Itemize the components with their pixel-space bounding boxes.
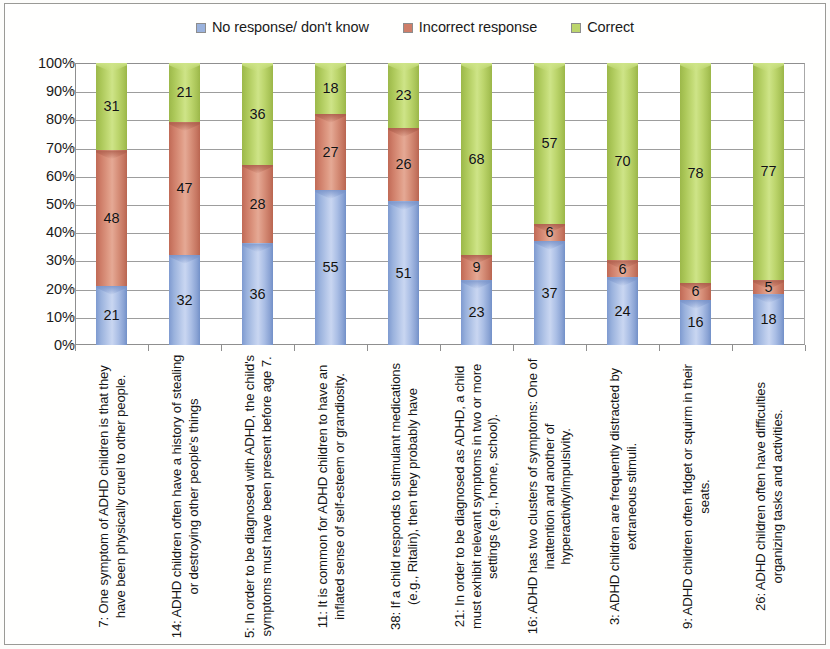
- segment-value-label: 26: [395, 157, 411, 172]
- segment-value-label: 21: [103, 308, 119, 323]
- x-axis-tick-mark: [732, 345, 733, 351]
- segment-incorrect[interactable]: 48: [96, 150, 127, 285]
- segment-correct[interactable]: 21: [169, 63, 200, 122]
- segment-incorrect[interactable]: 6: [607, 260, 638, 277]
- segment-incorrect[interactable]: 9: [461, 255, 492, 280]
- segment-no-response[interactable]: 21: [96, 286, 127, 345]
- segment-correct[interactable]: 23: [388, 63, 419, 128]
- segment-value-label: 21: [176, 85, 192, 100]
- y-axis-tick-label: 60%: [13, 168, 75, 184]
- segment-value-label: 68: [468, 152, 484, 167]
- segment-incorrect[interactable]: 5: [753, 280, 784, 294]
- segment-value-label: 28: [249, 197, 265, 212]
- category-label-slot: 38: If a child responds to stimulant med…: [367, 354, 440, 644]
- bar-slot: 214732: [148, 63, 221, 345]
- x-axis-tick-mark: [294, 345, 295, 351]
- y-axis: 100%90%80%70%60%50%40%30%20%10%0%: [0, 63, 75, 345]
- segment-correct[interactable]: 31: [96, 63, 127, 150]
- segment-no-response[interactable]: 23: [461, 280, 492, 345]
- segment-value-label: 23: [468, 305, 484, 320]
- category-label-slot: 26: ADHD children often have difficultie…: [732, 354, 805, 644]
- segment-incorrect[interactable]: 6: [680, 283, 711, 300]
- y-axis-tick-label: 40%: [13, 224, 75, 240]
- segment-value-label: 55: [322, 260, 338, 275]
- segment-value-label: 6: [691, 284, 699, 299]
- category-label: 21: In order to be diagnosed as ADHD, a …: [452, 354, 502, 639]
- segment-value-label: 27: [322, 145, 338, 160]
- segment-value-label: 6: [618, 262, 626, 277]
- stacked-bar[interactable]: 182755: [315, 63, 346, 345]
- segment-incorrect[interactable]: 28: [242, 165, 273, 244]
- segment-correct[interactable]: 57: [534, 63, 565, 224]
- segment-correct[interactable]: 36: [242, 63, 273, 165]
- x-axis-tick-mark: [513, 345, 514, 351]
- category-label-slot: 3: ADHD children are frequently distract…: [586, 354, 659, 644]
- x-axis-tick-mark: [75, 345, 76, 351]
- segment-value-label: 36: [249, 107, 265, 122]
- segment-no-response[interactable]: 24: [607, 277, 638, 345]
- stacked-bar[interactable]: 314821: [96, 63, 127, 345]
- segment-value-label: 18: [760, 312, 776, 327]
- segment-no-response[interactable]: 36: [242, 243, 273, 345]
- category-label: 16: ADHD has two clusters of symptoms: O…: [525, 354, 575, 639]
- category-label: 3: ADHD children are frequently distract…: [606, 354, 639, 639]
- segment-no-response[interactable]: 32: [169, 255, 200, 345]
- category-label: 38: If a child responds to stimulant med…: [387, 354, 420, 639]
- category-label: 7: One symptom of ADHD children is that …: [95, 354, 128, 639]
- segment-no-response[interactable]: 16: [680, 300, 711, 345]
- segment-incorrect[interactable]: 27: [315, 114, 346, 190]
- segment-value-label: 77: [760, 164, 776, 179]
- segment-value-label: 37: [541, 286, 557, 301]
- category-label-slot: 9: ADHD children often fidget or squirm …: [659, 354, 732, 644]
- x-axis-tick-mark: [148, 345, 149, 351]
- segment-no-response[interactable]: 55: [315, 190, 346, 345]
- x-axis-tick-mark: [367, 345, 368, 351]
- x-axis-ticks: [75, 345, 805, 352]
- y-axis-tick-label: 10%: [13, 309, 75, 325]
- y-axis-tick-label: 100%: [13, 55, 75, 71]
- segment-incorrect[interactable]: 47: [169, 122, 200, 255]
- bar-slot: 57637: [513, 63, 586, 345]
- segment-value-label: 31: [103, 99, 119, 114]
- stacked-bar[interactable]: 77518: [753, 63, 784, 345]
- bar-slot: 77518: [732, 63, 805, 345]
- segment-value-label: 48: [103, 211, 119, 226]
- bar-slot: 182755: [294, 63, 367, 345]
- segment-no-response[interactable]: 18: [753, 294, 784, 345]
- stacked-bar[interactable]: 70624: [607, 63, 638, 345]
- segment-value-label: 36: [249, 287, 265, 302]
- segment-value-label: 51: [395, 266, 411, 281]
- bar-slot: 314821: [75, 63, 148, 345]
- category-label-slot: 5: In order to be diagnosed with ADHD, t…: [221, 354, 294, 644]
- stacked-bar[interactable]: 214732: [169, 63, 200, 345]
- segment-incorrect[interactable]: 6: [534, 224, 565, 241]
- segment-value-label: 70: [614, 154, 630, 169]
- segment-correct[interactable]: 18: [315, 63, 346, 114]
- segment-correct[interactable]: 77: [753, 63, 784, 280]
- category-label: 9: ADHD children often fidget or squirm …: [679, 354, 712, 639]
- segment-no-response[interactable]: 51: [388, 201, 419, 345]
- stacked-bar[interactable]: 232651: [388, 63, 419, 345]
- segment-incorrect[interactable]: 26: [388, 128, 419, 201]
- x-axis-category-labels: 7: One symptom of ADHD children is that …: [75, 354, 805, 644]
- chart-screenshot: No response/ don't knowIncorrect respons…: [0, 0, 830, 649]
- category-label: 11: It is common for ADHD children to ha…: [314, 354, 347, 639]
- category-label: 5: In order to be diagnosed with ADHD, t…: [241, 354, 274, 639]
- segment-no-response[interactable]: 37: [534, 241, 565, 345]
- stacked-bar[interactable]: 57637: [534, 63, 565, 345]
- stacked-bar[interactable]: 78616: [680, 63, 711, 345]
- segment-correct[interactable]: 78: [680, 63, 711, 283]
- segment-value-label: 24: [614, 304, 630, 319]
- stacked-bar[interactable]: 362836: [242, 63, 273, 345]
- segment-value-label: 16: [687, 315, 703, 330]
- segment-value-label: 18: [322, 81, 338, 96]
- segment-correct[interactable]: 68: [461, 63, 492, 255]
- x-axis-tick-mark: [805, 345, 806, 351]
- segment-value-label: 78: [687, 166, 703, 181]
- category-label-slot: 16: ADHD has two clusters of symptoms: O…: [513, 354, 586, 644]
- segment-value-label: 5: [764, 280, 772, 295]
- stacked-bar[interactable]: 68923: [461, 63, 492, 345]
- segment-correct[interactable]: 70: [607, 63, 638, 260]
- y-axis-tick-label: 70%: [13, 140, 75, 156]
- segment-value-label: 23: [395, 88, 411, 103]
